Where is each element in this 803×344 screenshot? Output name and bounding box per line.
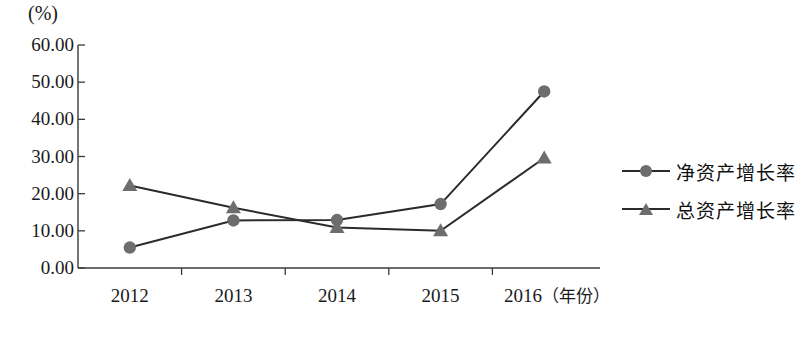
legend-label: 总资产增长率 xyxy=(676,196,796,223)
data-point-marker xyxy=(434,198,446,210)
line-chart: (%) 60.0050.0040.0030.0020.0010.000.00 2… xyxy=(0,0,803,344)
data-point-marker xyxy=(538,85,550,97)
x-axis-tick-label: 2012 xyxy=(111,286,149,305)
x-axis-tick-label: 2015 xyxy=(422,286,460,305)
legend-marker-sample xyxy=(622,199,670,219)
data-point-marker xyxy=(227,214,239,226)
series-2 xyxy=(122,150,551,236)
data-point-marker xyxy=(124,241,136,253)
data-point-marker xyxy=(537,150,552,163)
chart-legend: 净资产增长率总资产增长率 xyxy=(622,152,802,228)
series-layer xyxy=(122,85,551,254)
legend-marker-sample xyxy=(622,161,670,181)
circle-marker-icon xyxy=(640,165,652,177)
x-axis-tick-label: 2016（年份） xyxy=(504,286,610,306)
x-axis-tick-year: 2016 xyxy=(504,285,542,306)
x-axis-tick-label: 2013 xyxy=(214,286,252,305)
x-axis-tick-labels: 20122013201420152016（年份） xyxy=(74,286,604,326)
legend-item[interactable]: 净资产增长率 xyxy=(622,152,802,190)
triangle-marker-icon xyxy=(639,203,653,215)
x-axis-tick-label: 2014 xyxy=(318,286,356,305)
legend-item[interactable]: 总资产增长率 xyxy=(622,190,802,228)
legend-label: 净资产增长率 xyxy=(676,158,796,185)
data-point-marker xyxy=(122,178,137,191)
x-axis-unit-label: （年份） xyxy=(542,286,610,306)
